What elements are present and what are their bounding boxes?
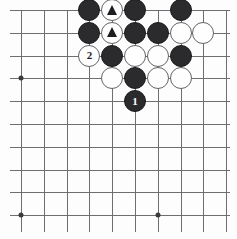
black-stone-move-1[interactable]: 1 bbox=[124, 90, 146, 112]
stone-move-number: 2 bbox=[87, 50, 93, 61]
stone-move-number: 1 bbox=[132, 96, 138, 107]
white-stone[interactable] bbox=[101, 67, 123, 89]
star-point-bottom-center bbox=[155, 213, 160, 218]
white-stone-marked[interactable] bbox=[101, 22, 123, 44]
grid-line-vertical-0 bbox=[21, 10, 22, 232]
black-stone[interactable] bbox=[124, 0, 146, 21]
white-stone-marked[interactable] bbox=[101, 0, 123, 21]
grid-line-vertical-1 bbox=[44, 10, 45, 232]
white-stone[interactable] bbox=[192, 22, 214, 44]
go-board-diagram: 21 bbox=[0, 0, 237, 239]
grid-line-vertical-9 bbox=[226, 10, 227, 232]
white-stone-move-2[interactable]: 2 bbox=[78, 45, 100, 67]
white-stone[interactable] bbox=[124, 45, 146, 67]
black-stone[interactable] bbox=[101, 45, 123, 67]
white-stone[interactable] bbox=[170, 22, 192, 44]
star-point-bottom-left bbox=[19, 213, 24, 218]
white-stone[interactable] bbox=[147, 45, 169, 67]
triangle-marker-icon bbox=[107, 5, 117, 15]
black-stone[interactable] bbox=[78, 22, 100, 44]
grid-line-vertical-2 bbox=[67, 10, 68, 232]
black-stone[interactable] bbox=[78, 0, 100, 21]
black-stone[interactable] bbox=[170, 45, 192, 67]
white-stone[interactable] bbox=[170, 67, 192, 89]
black-stone[interactable] bbox=[124, 22, 146, 44]
triangle-marker-icon bbox=[107, 27, 117, 37]
star-point-left bbox=[19, 76, 24, 81]
white-stone[interactable] bbox=[147, 67, 169, 89]
black-stone[interactable] bbox=[147, 22, 169, 44]
black-stone[interactable] bbox=[170, 0, 192, 21]
black-stone[interactable] bbox=[124, 67, 146, 89]
